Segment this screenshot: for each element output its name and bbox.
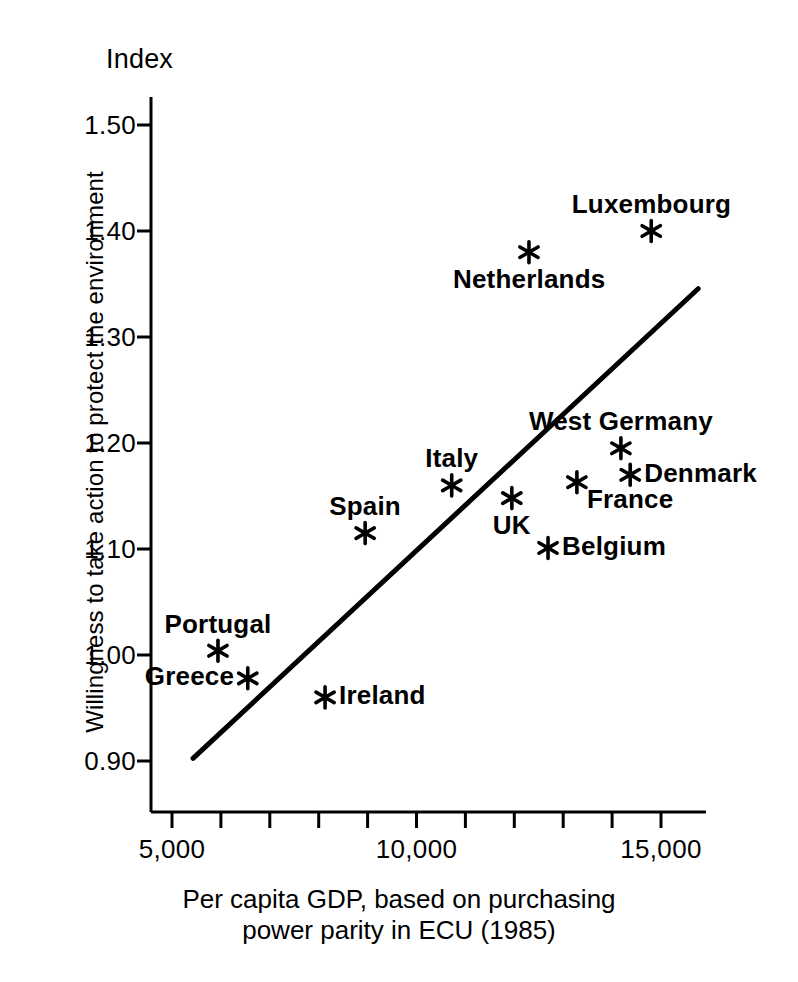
point-label: UK bbox=[493, 512, 531, 538]
y-tick-label: 0.90 bbox=[44, 748, 136, 774]
data-point-marker bbox=[612, 438, 630, 459]
x-tick-label: 15,000 bbox=[586, 836, 736, 862]
regression-line bbox=[193, 289, 698, 759]
point-label: Denmark bbox=[644, 460, 757, 486]
data-point-marker bbox=[316, 687, 334, 708]
y-tick-label: 1.00 bbox=[44, 642, 136, 668]
y-tick-label: 1.30 bbox=[44, 324, 136, 350]
data-point-marker bbox=[621, 464, 639, 485]
data-point-marker bbox=[209, 640, 227, 661]
point-label: Portugal bbox=[164, 611, 271, 637]
y-tick-label: 1.20 bbox=[44, 430, 136, 456]
data-point-marker bbox=[520, 242, 538, 263]
data-point-marker bbox=[356, 523, 374, 544]
point-label: Luxembourg bbox=[572, 191, 731, 217]
point-label: Ireland bbox=[339, 682, 426, 708]
data-point-marker bbox=[539, 537, 557, 558]
data-point-marker bbox=[568, 472, 586, 493]
x-axis-title-line-1: Per capita GDP, based on purchasing bbox=[182, 884, 615, 914]
data-point-marker bbox=[642, 221, 660, 242]
x-tick-label: 5,000 bbox=[97, 836, 247, 862]
point-label: France bbox=[587, 486, 673, 512]
y-tick-label: 1.40 bbox=[44, 218, 136, 244]
x-axis-title-line-2: power parity in ECU (1985) bbox=[242, 915, 556, 945]
trend-line bbox=[193, 289, 698, 759]
data-point-marker bbox=[503, 488, 521, 509]
point-label: West Germany bbox=[529, 408, 713, 434]
x-tick-label: 10,000 bbox=[342, 836, 492, 862]
point-label: Greece bbox=[145, 663, 234, 689]
point-label: Belgium bbox=[562, 533, 666, 559]
data-point-marker bbox=[239, 668, 257, 689]
point-label: Italy bbox=[425, 445, 478, 471]
point-label: Netherlands bbox=[453, 266, 605, 292]
x-axis-title: Per capita GDP, based on purchasingpower… bbox=[99, 884, 699, 945]
y-tick-label: 1.50 bbox=[44, 112, 136, 138]
point-label: Spain bbox=[329, 493, 401, 519]
index-axis-header: Index bbox=[106, 46, 173, 73]
chart-figure: Index Willingness to take action to prot… bbox=[0, 0, 798, 982]
data-point-marker bbox=[443, 475, 461, 496]
x-axis-ticks bbox=[172, 812, 661, 828]
y-tick-label: 1.10 bbox=[44, 536, 136, 562]
